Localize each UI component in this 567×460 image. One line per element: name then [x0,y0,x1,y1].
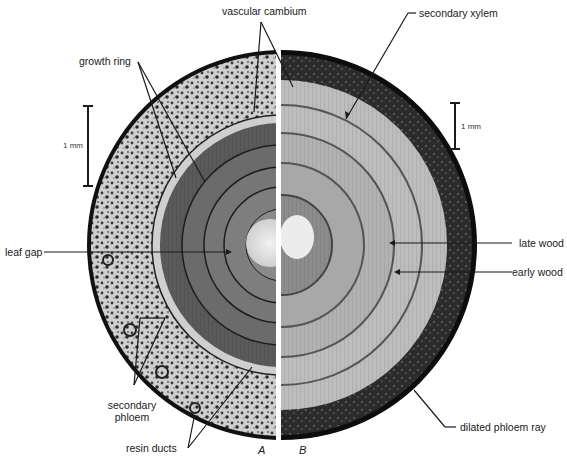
label-vascular-cambium: vascular cambium [222,5,307,17]
scale-bar-b-label: 1 mm [461,121,481,133]
cross-section-illustration [0,0,567,460]
label-secondary-phloem-line2: phloem [102,411,162,423]
label-secondary-phloem-line1: secondary [102,399,162,411]
label-dilated-phloem-ray: dilated phloem ray [460,421,546,433]
label-secondary-xylem: secondary xylem [419,7,498,19]
scale-bar-b [450,103,460,149]
scale-bar-a-label: 1 mm [63,140,83,152]
panel-label-b: B [299,444,306,456]
label-growth-ring: growth ring [79,55,131,67]
stem-cross-section-figure: vascular cambium secondary xylem growth … [0,0,567,460]
label-leaf-gap: leaf gap [5,246,42,258]
label-secondary-phloem: secondary phloem [102,399,162,423]
label-late-wood: late wood [519,237,564,249]
label-resin-ducts: resin ducts [126,442,177,454]
panel-label-a: A [258,444,265,456]
panel-divider [276,40,281,460]
scale-bar-a [83,106,93,186]
label-early-wood: early wood [512,266,563,278]
